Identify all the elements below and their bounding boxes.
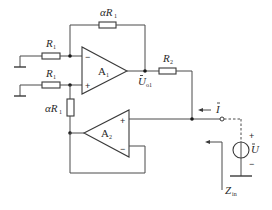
svg-text:αR: αR bbox=[45, 102, 58, 114]
svg-text:R: R bbox=[45, 67, 53, 79]
resistor-feedback-bottom: αR 1 bbox=[45, 85, 74, 133]
opamp-a1: − + A 1 bbox=[82, 47, 127, 94]
svg-text:+: + bbox=[249, 131, 254, 141]
svg-text:αR: αR bbox=[100, 6, 113, 18]
svg-text:1: 1 bbox=[114, 13, 117, 19]
dashed-connection bbox=[224, 119, 241, 142]
junction-dot bbox=[68, 54, 72, 58]
resistor-r1-top: R 1 bbox=[42, 37, 60, 59]
svg-text:2: 2 bbox=[170, 59, 173, 65]
current-arrow-icon: I bbox=[198, 103, 221, 115]
svg-text:Z: Z bbox=[225, 184, 232, 196]
svg-text:1: 1 bbox=[59, 109, 62, 115]
resistor-r1-bottom: R 1 bbox=[42, 67, 60, 88]
voltage-source-icon: + − U bbox=[230, 131, 260, 176]
svg-text:1: 1 bbox=[106, 72, 109, 78]
svg-text:2: 2 bbox=[109, 134, 112, 140]
svg-text:−: − bbox=[249, 159, 254, 169]
svg-text:R: R bbox=[45, 37, 53, 49]
svg-text:o1: o1 bbox=[146, 82, 152, 88]
svg-text:I: I bbox=[215, 103, 221, 115]
output-node-label: U o1 bbox=[138, 75, 152, 88]
impedance-arrow-icon: Z in bbox=[205, 140, 237, 197]
junction-dot bbox=[190, 117, 194, 121]
svg-text:U: U bbox=[251, 143, 260, 155]
svg-text:A: A bbox=[101, 127, 109, 139]
ground-icon-1 bbox=[14, 56, 42, 67]
input-terminal bbox=[220, 117, 224, 121]
ground-icon-2 bbox=[14, 85, 42, 96]
opamp-a2: + − A 2 bbox=[84, 110, 129, 157]
resistor-r2: R 2 bbox=[159, 52, 176, 74]
circuit-diagram: R 1 R 1 αR 1 − + A 1 U o1 bbox=[0, 0, 272, 210]
svg-text:−: − bbox=[120, 144, 125, 154]
svg-text:+: + bbox=[120, 116, 125, 126]
svg-text:+: + bbox=[85, 81, 90, 91]
svg-text:in: in bbox=[232, 191, 237, 197]
junction-dot bbox=[143, 69, 147, 73]
svg-text:1: 1 bbox=[53, 74, 56, 80]
svg-text:1: 1 bbox=[53, 44, 56, 50]
svg-text:R: R bbox=[162, 52, 170, 64]
svg-text:−: − bbox=[85, 52, 90, 62]
svg-text:A: A bbox=[98, 65, 106, 77]
